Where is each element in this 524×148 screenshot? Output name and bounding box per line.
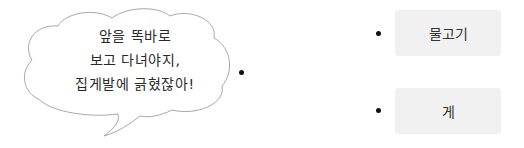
- connector-dot-option-1[interactable]: [376, 31, 381, 36]
- bubble-line-3: 집게발에 긁혔잖아!: [40, 72, 230, 96]
- option-box-crab[interactable]: 게: [395, 88, 501, 134]
- connector-dot-left[interactable]: [239, 70, 244, 75]
- speech-bubble: 앞을 똑바로 보고 다녀야지, 집게발에 긁혔잖아!: [0, 0, 260, 148]
- option-label: 물고기: [429, 23, 468, 43]
- bubble-line-2: 보고 다녀야지,: [40, 48, 230, 72]
- option-label: 게: [442, 101, 455, 121]
- option-box-fish[interactable]: 물고기: [395, 10, 501, 56]
- bubble-text: 앞을 똑바로 보고 다녀야지, 집게발에 긁혔잖아!: [40, 24, 230, 96]
- bubble-line-1: 앞을 똑바로: [40, 24, 230, 48]
- connector-dot-option-2[interactable]: [376, 108, 381, 113]
